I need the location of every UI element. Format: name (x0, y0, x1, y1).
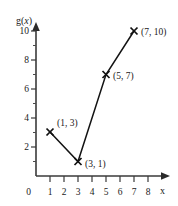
y-axis-arrowhead (32, 22, 40, 31)
y-ticklabel-0: 0 (26, 187, 31, 197)
plot-canvas: 10 8 6 4 2 0 1 2 3 4 5 6 7 8 g(x) x (1, … (0, 0, 178, 206)
point-label-5-7: (5, 7) (113, 71, 134, 82)
y-ticklabel-8: 8 (24, 55, 29, 65)
axes-group (32, 22, 170, 180)
x-ticklabel-6: 6 (118, 187, 123, 197)
x-ticklabel-3: 3 (76, 187, 81, 197)
x-ticklabel-2: 2 (62, 187, 67, 197)
point-label-1-3: (1, 3) (57, 118, 78, 129)
data-point-marker-3 (103, 71, 110, 78)
y-axis-title: g(x) (16, 15, 32, 27)
y-ticklabel-4: 4 (24, 113, 29, 123)
y-ticklabel-2: 2 (24, 142, 29, 152)
y-ticklabel-6: 6 (24, 84, 29, 94)
x-ticklabel-4: 4 (90, 187, 95, 197)
data-point-marker-4 (131, 28, 138, 35)
data-point-marker-2 (75, 158, 82, 165)
x-axis-arrowhead (161, 172, 170, 180)
x-ticklabel-7: 7 (132, 187, 137, 197)
point-label-7-10: (7, 10) (141, 27, 166, 38)
x-ticklabel-5: 5 (104, 187, 109, 197)
graph-figure: 10 8 6 4 2 0 1 2 3 4 5 6 7 8 g(x) x (1, … (0, 0, 178, 206)
data-series-line (50, 31, 134, 162)
data-point-marker-1 (47, 129, 54, 136)
x-axis-ticks (50, 176, 148, 182)
y-ticklabel-10: 10 (20, 26, 30, 36)
x-ticklabel-8: 8 (146, 187, 151, 197)
x-axis-title: x (160, 185, 165, 196)
point-label-3-1: (3, 1) (85, 159, 106, 170)
y-axis-title-close: ) (29, 15, 32, 27)
x-ticklabel-1: 1 (48, 187, 53, 197)
